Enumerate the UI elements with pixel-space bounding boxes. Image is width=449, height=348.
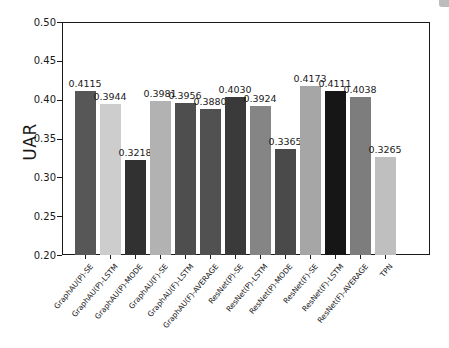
- x-tick-mark: [285, 255, 286, 259]
- x-tick-mark: [110, 255, 111, 259]
- figure: UAR 0.41150.39440.32180.39810.39560.3880…: [0, 0, 449, 348]
- y-tick-mark: [57, 255, 62, 256]
- bar: [100, 104, 121, 255]
- bar: [300, 86, 321, 255]
- bar: [350, 97, 371, 255]
- x-tick-mark: [360, 255, 361, 259]
- screenshot-artifact: [439, 0, 449, 7]
- bar: [250, 106, 271, 255]
- bar-value-label: 0.3924: [235, 92, 285, 105]
- y-tick-label: 0.40: [0, 93, 56, 106]
- bar: [375, 157, 396, 255]
- x-tick-mark: [235, 255, 236, 259]
- bar: [200, 109, 221, 255]
- bar-value-label: 0.4115: [60, 77, 110, 90]
- bar-value-label: 0.4038: [335, 83, 385, 96]
- y-tick-mark: [57, 61, 62, 62]
- y-tick-mark: [57, 22, 62, 23]
- bar: [275, 149, 296, 255]
- x-tick-mark: [385, 255, 386, 259]
- x-tick-mark: [135, 255, 136, 259]
- y-tick-label: 0.20: [0, 249, 56, 262]
- y-tick-mark: [57, 177, 62, 178]
- x-tick-mark: [260, 255, 261, 259]
- y-tick-label: 0.30: [0, 171, 56, 184]
- bar: [150, 101, 171, 255]
- y-tick-label: 0.50: [0, 16, 56, 29]
- y-tick-label: 0.25: [0, 210, 56, 223]
- y-tick-mark: [57, 139, 62, 140]
- bar: [175, 103, 196, 255]
- x-tick-mark: [85, 255, 86, 259]
- y-tick-label: 0.35: [0, 132, 56, 145]
- x-tick-label-text: GraphAU(F)-LSTM: [145, 262, 195, 319]
- y-tick-mark: [57, 216, 62, 217]
- x-tick-mark: [310, 255, 311, 259]
- x-tick-label-text: TPN: [379, 262, 395, 279]
- x-tick-mark: [210, 255, 211, 259]
- y-tick-label: 0.45: [0, 54, 56, 67]
- x-tick-mark: [185, 255, 186, 259]
- bar-value-label: 0.3944: [85, 90, 135, 103]
- bar: [225, 97, 246, 255]
- x-tick-mark: [335, 255, 336, 259]
- bar: [75, 91, 96, 255]
- y-tick-mark: [57, 100, 62, 101]
- bar: [325, 91, 346, 255]
- bar-value-label: 0.3265: [360, 143, 410, 156]
- x-tick-mark: [160, 255, 161, 259]
- bar: [125, 160, 146, 255]
